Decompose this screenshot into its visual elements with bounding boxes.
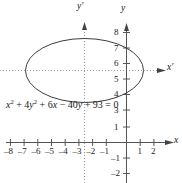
y-tick-label--2: –2 [111, 169, 120, 178]
y-tick-label--1: –1 [111, 154, 120, 163]
y-tick-label-4: 4 [114, 90, 119, 99]
x-tick-label--7: –7 [18, 147, 27, 156]
y-axis-label: y [121, 4, 125, 14]
equation-op-3: − 40 [57, 99, 78, 110]
y-tick-label-8: 8 [114, 28, 119, 37]
x-tick-label--1: –1 [100, 147, 109, 156]
x-prime-axis-label: x′ [167, 63, 173, 73]
x-prime-arrowhead [157, 68, 166, 73]
y-prime-axis-label: y′ [77, 2, 83, 12]
x-tick-label-2: 2 [151, 147, 156, 156]
x-tick-label--2: –2 [86, 147, 95, 156]
x-tick-label--6: –6 [31, 147, 40, 156]
x-tick-label--8: –8 [4, 147, 13, 156]
equation-op-2: + 6 [37, 99, 53, 110]
x-tick-label--4: –4 [59, 147, 68, 156]
y-tick-label-7: 7 [114, 44, 119, 53]
y-prime-arrowhead [82, 22, 87, 30]
x-axis-label: x [174, 136, 178, 146]
ellipse-equation-label: x2 + 4y2 + 6x − 40y + 93 = 0 [6, 100, 119, 110]
x-tick-label--3: –3 [73, 147, 82, 156]
x-axis-arrowhead [165, 140, 174, 145]
equation-op-4: + 93 = 0 [82, 99, 118, 110]
y-tick-label-6: 6 [114, 59, 119, 68]
y-tick-label-5: 5 [114, 75, 119, 84]
y-tick-label-1: 1 [114, 123, 119, 132]
y-axis-arrowhead [124, 23, 129, 31]
x-tick-label--5: –5 [45, 147, 54, 156]
ellipse-graph-figure: y′ x′ y x –8 –7 –6 –5 –4 –3 –2 –1 1 2 8 … [0, 0, 182, 183]
equation-op-1: + 4 [14, 99, 30, 110]
x-tick-label-1: 1 [137, 147, 142, 156]
